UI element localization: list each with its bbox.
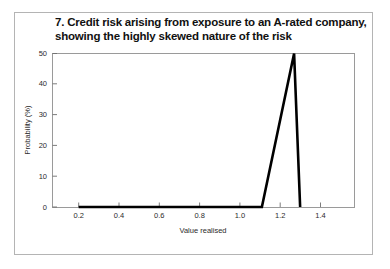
y-axis-tick-labels: 0 10 20 30 40 50 bbox=[39, 49, 47, 212]
x-tick-label-0-6: 0.6 bbox=[154, 211, 164, 220]
y-tick-label-10: 10 bbox=[39, 172, 47, 181]
y-tick-label-50: 50 bbox=[39, 49, 47, 58]
x-tick-label-1-2: 1.2 bbox=[275, 211, 285, 220]
x-tick-label-0-8: 0.8 bbox=[194, 211, 204, 220]
probability-data-line bbox=[79, 54, 300, 208]
x-axis-title: Value realised bbox=[180, 226, 227, 235]
x-tick-label-1-0: 1.0 bbox=[235, 211, 245, 220]
y-tick-label-30: 30 bbox=[39, 110, 47, 119]
x-tick-label-0-2: 0.2 bbox=[73, 211, 83, 220]
x-axis-tick-labels: 0.2 0.4 0.6 0.8 1.0 1.2 1.4 bbox=[73, 211, 325, 220]
y-axis-title: Probability (%) bbox=[23, 105, 32, 154]
y-tick-label-40: 40 bbox=[39, 79, 47, 88]
y-axis-ticks bbox=[53, 54, 58, 208]
x-tick-label-1-4: 1.4 bbox=[315, 211, 325, 220]
y-tick-label-20: 20 bbox=[39, 141, 47, 150]
y-tick-label-0: 0 bbox=[43, 203, 47, 212]
x-tick-label-0-4: 0.4 bbox=[114, 211, 124, 220]
chart-plot: 0 10 20 30 40 50 0.2 0.4 0.6 0.8 1.0 1.2… bbox=[0, 0, 390, 269]
plot-area-frame bbox=[53, 54, 355, 208]
figure-canvas: 7. Credit risk arising from exposure to … bbox=[0, 0, 390, 269]
